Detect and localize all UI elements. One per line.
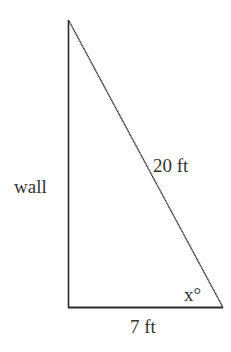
wall-label: wall [14, 176, 47, 197]
hypotenuse-side [69, 21, 223, 308]
base-label: 7 ft [130, 316, 157, 337]
angle-label: x° [184, 284, 201, 305]
hypotenuse-label: 20 ft [153, 155, 189, 176]
triangle-diagram: wall 20 ft x° 7 ft [0, 0, 231, 352]
